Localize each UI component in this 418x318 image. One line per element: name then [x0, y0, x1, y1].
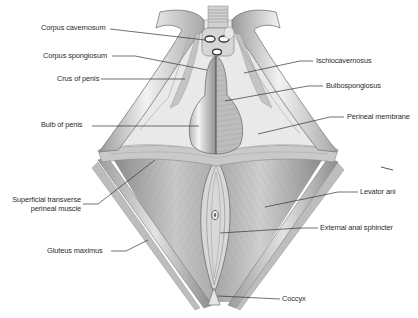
- label-levator-ani: Levator ani: [360, 188, 395, 197]
- label-corpus-cavernosum: Corpus cavernosum: [41, 24, 105, 33]
- label-external-anal-sphincter: External anal sphincter: [320, 224, 393, 233]
- suspensory-ligament: [208, 6, 228, 28]
- label-bulb-of-penis: Bulb of penis: [41, 121, 82, 130]
- label-perineal-membrane: Perineal membrane: [347, 113, 410, 122]
- label-line-2: perineal muscle: [8, 205, 81, 214]
- stray-mark: [381, 167, 393, 170]
- perineum-diagram: Corpus cavernosum Corpus spongiosum Crus…: [0, 0, 418, 318]
- label-bulbospongiosus: Bulbospongiosus: [326, 82, 381, 91]
- label-coccyx: Coccyx: [282, 295, 306, 304]
- label-crus-of-penis: Crus of penis: [57, 75, 99, 84]
- leader-line-gluteus-maximus: [111, 240, 148, 251]
- perineum-illustration: [0, 0, 418, 318]
- penis-cross-section: [202, 27, 234, 56]
- label-superficial-transverse-perineal-muscle: Superficial transverse perineal muscle: [8, 196, 81, 213]
- label-ischiocavernosus: Ischiocavernosus: [316, 57, 372, 66]
- label-corpus-spongiosum: Corpus spongiosum: [43, 52, 107, 61]
- label-gluteus-maximus: Gluteus maximus: [47, 247, 103, 256]
